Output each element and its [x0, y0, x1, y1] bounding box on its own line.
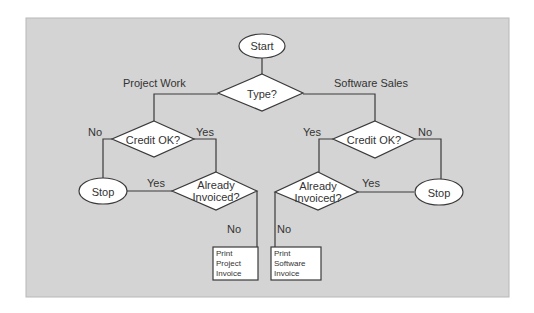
credit-left-label: Credit OK? [126, 134, 180, 146]
edge-label-invoiced-left-yes: Yes [147, 177, 165, 189]
type-label: Type? [247, 88, 277, 100]
edge-label-credit-left-no: No [88, 126, 102, 138]
print-project-line3: Invoice [216, 269, 242, 278]
print-project-line2: Project [216, 259, 242, 268]
diagram-background-panel [26, 18, 509, 297]
invoiced-left-label-line2: Invoiced? [192, 191, 239, 203]
invoiced-left-label-line1: Already [197, 179, 235, 191]
edge-label-invoiced-right-no: No [277, 223, 291, 235]
print-software-line3: Invoice [274, 269, 300, 278]
print-software-line2: Software [274, 259, 306, 268]
flowchart-diagram: Start Type? Credit OK? Credit OK? Stop S… [0, 0, 534, 313]
edge-label-software-sales: Software Sales [334, 77, 408, 89]
stop-right-node: Stop [415, 179, 463, 205]
credit-right-label: Credit OK? [347, 134, 401, 146]
stop-right-label: Stop [428, 187, 451, 199]
stop-left-node: Stop [79, 178, 127, 204]
start-node: Start [239, 34, 285, 58]
edge-label-credit-right-no: No [418, 126, 432, 138]
stop-left-label: Stop [92, 186, 115, 198]
print-project-line1: Print [216, 249, 233, 258]
edge-label-credit-left-yes: Yes [196, 126, 214, 138]
invoiced-right-label-line1: Already [299, 180, 337, 192]
edge-label-invoiced-left-no: No [227, 223, 241, 235]
edge-label-project-work: Project Work [123, 77, 186, 89]
invoiced-right-label-line2: Invoiced? [294, 192, 341, 204]
start-label: Start [250, 40, 273, 52]
print-software-node: Print Software Invoice [271, 247, 321, 280]
print-software-line1: Print [274, 249, 291, 258]
edge-label-invoiced-right-yes: Yes [362, 177, 380, 189]
print-project-node: Print Project Invoice [213, 247, 258, 280]
edge-label-credit-right-yes: Yes [303, 126, 321, 138]
